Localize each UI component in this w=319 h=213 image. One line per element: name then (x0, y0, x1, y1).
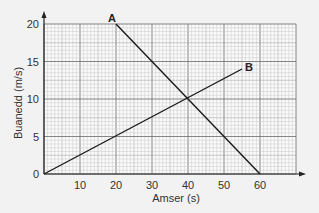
y-tick-label: 0 (33, 168, 39, 180)
series-label-b: B (245, 61, 253, 73)
x-axis-arrow-icon (299, 172, 306, 177)
y-tick-label: 10 (27, 93, 39, 105)
y-tick-label: 15 (27, 56, 39, 68)
x-tick-label: 40 (182, 179, 194, 191)
y-axis-label: Buanedd (m/s) (12, 67, 24, 139)
grid (44, 24, 296, 174)
series-label-a: A (108, 12, 116, 24)
x-tick-label: 30 (146, 179, 158, 191)
x-axis-label: Amser (s) (152, 192, 200, 204)
chart: 10203040506005101520 AB Amser (s) Buaned… (0, 0, 319, 213)
x-tick-label: 10 (74, 179, 86, 191)
x-tick-label: 50 (218, 179, 230, 191)
y-tick-label: 5 (33, 131, 39, 143)
x-tick-label: 60 (254, 179, 266, 191)
x-tick-label: 20 (110, 179, 122, 191)
y-tick-label: 20 (27, 18, 39, 30)
y-axis-arrow-icon (42, 11, 47, 18)
